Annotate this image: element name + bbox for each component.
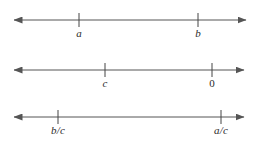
tick-label-b: b: [195, 28, 201, 39]
tick-label-c: c: [102, 78, 107, 89]
second-number-line-axis: [0, 54, 259, 88]
number-lines-figure: a b c 0: [0, 0, 259, 146]
tick-label-a-over-c: a/c: [214, 125, 228, 136]
first-number-line-axis: [0, 4, 259, 38]
tick-label-zero: 0: [209, 78, 215, 89]
second-number-line: c 0: [0, 54, 259, 88]
tick-label-b-over-c: b/c: [51, 125, 65, 136]
tick-label-a: a: [76, 28, 82, 39]
first-number-line: a b: [0, 4, 259, 38]
third-number-line: b/c a/c: [0, 101, 259, 135]
